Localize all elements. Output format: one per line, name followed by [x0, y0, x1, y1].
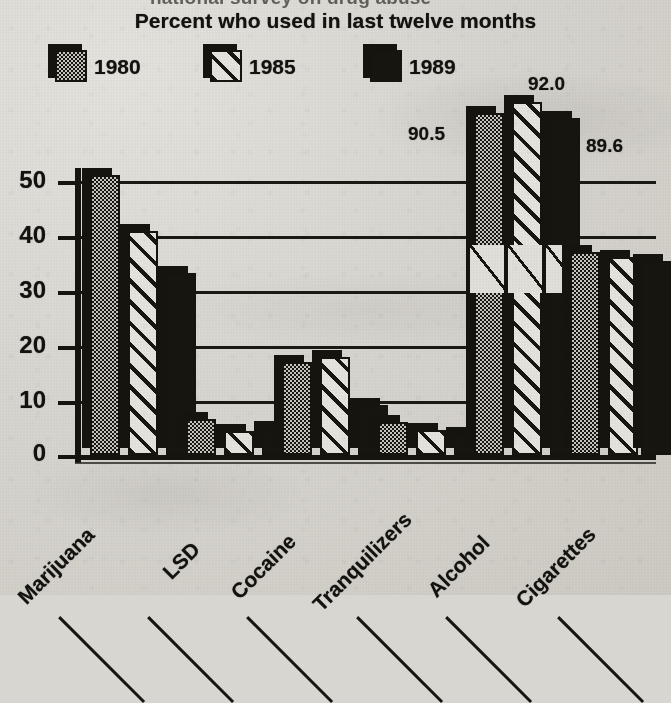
x-slash-lsd: [147, 616, 234, 703]
bar-cigarettes-1980[interactable]: [570, 252, 600, 455]
x-axis-underline: [75, 462, 656, 464]
bar-cocaine-1980[interactable]: [282, 362, 312, 455]
axis-break-alcohol-1985: [508, 245, 546, 293]
axis-break-alcohol-1980: [470, 245, 508, 293]
bar-marijuana-1980[interactable]: [90, 175, 120, 455]
x-slash-tranquilizers: [356, 616, 443, 703]
bar-tranquilizers-1985[interactable]: [416, 430, 446, 455]
bar-tranquilizers-1980[interactable]: [378, 422, 408, 455]
bar-cocaine-1985[interactable]: [320, 357, 350, 455]
bar-cigarettes-1989[interactable]: [641, 261, 671, 455]
x-slash-alcohol: [445, 616, 532, 703]
x-axis-line: [75, 455, 656, 460]
bar-lsd-1985[interactable]: [224, 431, 254, 455]
x-label-cocaine: Cocaine: [226, 529, 301, 604]
data-label-alcohol-1980: 90.5: [408, 123, 445, 145]
x-slash-cocaine: [246, 616, 333, 703]
y-tick-10: [58, 401, 76, 405]
y-tick-label-40: 40: [0, 223, 46, 247]
x-label-tranquilizers: Tranquilizers: [308, 507, 417, 616]
y-tick-label-0: 0: [0, 441, 46, 465]
y-tick-0: [58, 455, 76, 459]
x-slash-cigarettes: [557, 616, 644, 703]
y-tick-30: [58, 291, 76, 295]
x-label-cigarettes: Cigarettes: [511, 522, 601, 612]
data-label-alcohol-1985: 92.0: [528, 73, 565, 95]
bar-lsd-1980[interactable]: [186, 419, 216, 455]
y-tick-50: [58, 181, 76, 185]
x-label-lsd: LSD: [158, 537, 205, 584]
y-tick-label-20: 20: [0, 333, 46, 357]
x-label-marijuana: Marijuana: [13, 523, 99, 609]
y-tick-label-10: 10: [0, 388, 46, 412]
y-axis-line: [75, 168, 81, 463]
y-tick-40: [58, 236, 76, 240]
y-tick-label-50: 50: [0, 168, 46, 192]
bar-marijuana-1985[interactable]: [128, 231, 158, 455]
y-tick-20: [58, 346, 76, 350]
data-label-alcohol-1989: 89.6: [586, 135, 623, 157]
x-label-alcohol: Alcohol: [423, 531, 494, 602]
x-slash-marijuana: [58, 616, 145, 703]
y-tick-label-30: 30: [0, 278, 46, 302]
